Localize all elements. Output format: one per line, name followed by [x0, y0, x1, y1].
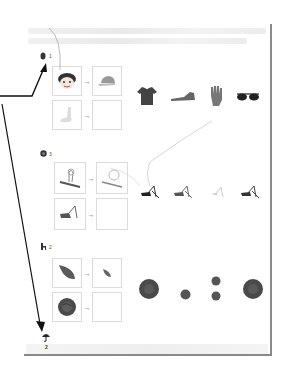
- cricket-dark-icon[interactable]: [240, 185, 262, 199]
- cricket-icon: [54, 198, 86, 230]
- leaf-small-icon: [92, 258, 122, 288]
- cricket-medium-icon[interactable]: [173, 185, 195, 199]
- exercise-2-analogy-grid: → →: [52, 258, 122, 322]
- rose-large-icon[interactable]: [242, 278, 264, 300]
- answer-blank[interactable]: [92, 100, 122, 130]
- answer-blank[interactable]: [96, 198, 128, 230]
- exercise-number: 3: [49, 151, 52, 157]
- boy-face-icon: [52, 66, 82, 96]
- tshirt-icon[interactable]: [136, 86, 158, 106]
- arrow-icon: →: [82, 258, 92, 288]
- foot-icon: [52, 100, 82, 130]
- exercise-3-analogy-grid: → →: [54, 162, 128, 230]
- shoe-icon[interactable]: [170, 90, 196, 102]
- worksheet-footer-text: [26, 344, 268, 354]
- exercise-number: 1: [49, 53, 52, 59]
- cricket-faded-icon[interactable]: [207, 185, 229, 199]
- rose-pair-icon[interactable]: [210, 276, 222, 302]
- arrow-icon: →: [82, 292, 92, 322]
- umbrella-icon: [41, 332, 51, 342]
- arrow-icon: →: [86, 162, 96, 194]
- circle-icon: [40, 150, 46, 157]
- rose-large-icon: [52, 292, 82, 322]
- arrow-icon: →: [86, 198, 96, 230]
- exercise-1-analogy-grid: → →: [52, 66, 122, 130]
- figure-icon: [40, 52, 46, 59]
- arrow-icon: →: [82, 100, 92, 130]
- grasshopper-outline-icon: [54, 162, 86, 194]
- exercise-1-options: [136, 84, 260, 108]
- worksheet-header-text: [28, 26, 266, 46]
- arrow-icon: →: [82, 66, 92, 96]
- umbrella-label: 2: [45, 344, 48, 350]
- exercise-2-header: 2: [40, 243, 52, 250]
- answer-blank[interactable]: [92, 292, 122, 322]
- rose-small-icon[interactable]: [180, 289, 191, 300]
- exercise-2-options: [138, 276, 264, 302]
- sunglasses-icon[interactable]: [236, 90, 260, 102]
- cap-icon: [92, 66, 122, 96]
- cricket-dark-icon[interactable]: [140, 185, 162, 199]
- grasshopper-faded-icon: [96, 162, 128, 194]
- exercise-3-options: [140, 185, 262, 199]
- leaf-large-icon: [52, 258, 82, 288]
- exercise-1-header: 1: [40, 52, 52, 59]
- rose-large-icon[interactable]: [138, 278, 160, 300]
- glove-icon[interactable]: [208, 84, 224, 108]
- chair-icon: [40, 243, 46, 250]
- exercise-3-header: 3: [40, 150, 52, 157]
- exercise-number: 2: [49, 244, 52, 250]
